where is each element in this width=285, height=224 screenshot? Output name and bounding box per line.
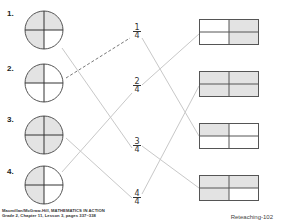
fraction-denominator: 4 [132, 198, 142, 205]
item-label-3: 3. [7, 115, 14, 124]
line-circle2-to-one-fourth [66, 38, 130, 78]
fraction-numerator: 1 [132, 24, 142, 31]
fraction-numerator: 4 [132, 190, 142, 197]
item-label-4: 4. [7, 167, 14, 176]
item-label-2: 2. [7, 64, 14, 73]
circle-one-fourth [24, 63, 64, 103]
circle-four-fourths [24, 115, 64, 155]
rect-four-fourths [199, 71, 259, 97]
line-two-fourths-to-rect1 [142, 34, 199, 85]
fraction-two-fourths: 2 4 [132, 78, 142, 93]
fraction-numerator: 2 [132, 78, 142, 85]
publisher-line-2: Grade 2, Chapter 11, Lesson 3, pages 337… [2, 213, 105, 218]
line-one-fourth-to-rect3 [142, 38, 199, 136]
fraction-four-fourths: 4 4 [132, 190, 142, 205]
fraction-matching-worksheet: 1. 2. 3. 4. 1 4 2 4 3 [0, 0, 285, 224]
line-four-fourths-to-rect2 [142, 86, 199, 194]
fraction-denominator: 4 [132, 32, 142, 39]
line-three-fourths-to-rect4 [142, 146, 199, 188]
fraction-numerator: 3 [132, 138, 142, 145]
circle-two-fourths [24, 165, 64, 205]
fraction-one-fourth: 1 4 [132, 24, 142, 39]
page-label: Reteaching-102 [231, 214, 273, 220]
rect-one-fourth [199, 123, 259, 149]
item-label-1: 1. [7, 9, 14, 18]
fraction-denominator: 4 [132, 86, 142, 93]
line-circle3-to-four-fourths [66, 138, 132, 198]
publisher-credit: Macmillan/McGraw-Hill, MATHEMATICS IN AC… [2, 208, 105, 218]
circle-three-fourths [24, 10, 64, 50]
rect-three-fourths [199, 175, 259, 201]
fraction-three-fourths: 3 4 [132, 138, 142, 153]
rect-two-fourths [199, 19, 259, 45]
fraction-denominator: 4 [132, 146, 142, 153]
